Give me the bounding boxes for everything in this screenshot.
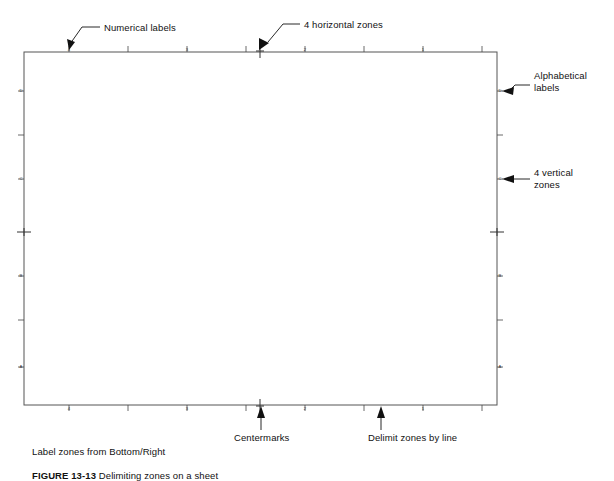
centermark-left [17, 228, 31, 236]
arrowhead-icon [259, 38, 269, 50]
annotation-centermarks: Centermarks [234, 432, 289, 444]
left-edge-ticks [18, 91, 24, 367]
annotation-numerical-labels: Numerical labels [104, 22, 176, 34]
zone-label-letter: C [498, 176, 501, 181]
zone-label-letter: C [19, 176, 22, 181]
annotation-horizontal-zones: 4 horizontal zones [304, 19, 383, 31]
leader-alphabetical-labels [502, 85, 530, 95]
leader-horizontal-zones [259, 24, 300, 50]
right-alphabetical-labels: D C B A [498, 88, 501, 369]
top-edge-ticks [69, 46, 482, 52]
zone-label-number: 4 [68, 406, 71, 411]
annotation-label-zones: Label zones from Bottom/Right [32, 446, 165, 458]
zone-label-letter: A [20, 364, 23, 369]
zone-label-letter: B [499, 273, 502, 278]
zone-label-letter: A [499, 364, 502, 369]
arrowhead-icon [502, 175, 514, 183]
zone-label-letter: D [19, 88, 22, 93]
zone-label-letter: B [20, 273, 23, 278]
zone-label-number: 3 [186, 47, 189, 52]
leader-numerical-labels [67, 27, 100, 50]
figure-caption-number: FIGURE 13-13 [32, 470, 96, 481]
annotation-delimit-zones: Delimit zones by line [368, 432, 457, 444]
zone-label-number: 3 [186, 406, 189, 411]
figure-caption-text: Delimiting zones on a sheet [99, 470, 218, 481]
leader-centermarks [257, 406, 265, 430]
zone-label-number: 2 [304, 47, 307, 52]
leader-delimit-zones [377, 406, 385, 430]
bottom-edge-ticks [69, 405, 482, 411]
annotation-alphabetical-labels: Alphabetical labels [534, 70, 587, 93]
leader-line [268, 24, 283, 42]
arrowhead-icon [257, 406, 265, 418]
right-edge-ticks [497, 91, 503, 367]
zone-label-number: 1 [422, 406, 425, 411]
figure-drawing: 4 3 2 1 4 3 2 1 [0, 0, 614, 481]
annotation-vertical-zones: 4 vertical zones [534, 167, 573, 190]
leader-vertical-zones [502, 175, 530, 183]
arrowhead-icon [502, 87, 514, 95]
figure-caption: FIGURE 13-13 Delimiting zones on a sheet [32, 470, 218, 481]
left-alphabetical-labels: D C B A [19, 88, 22, 369]
sheet-border-rect [24, 52, 497, 405]
zone-label-number: 1 [422, 47, 425, 52]
centermark-right [490, 228, 504, 236]
zone-label-number: 2 [304, 406, 307, 411]
arrowhead-icon [377, 406, 385, 418]
zone-label-letter: D [498, 88, 501, 93]
figure-root: 4 3 2 1 4 3 2 1 [0, 0, 614, 481]
